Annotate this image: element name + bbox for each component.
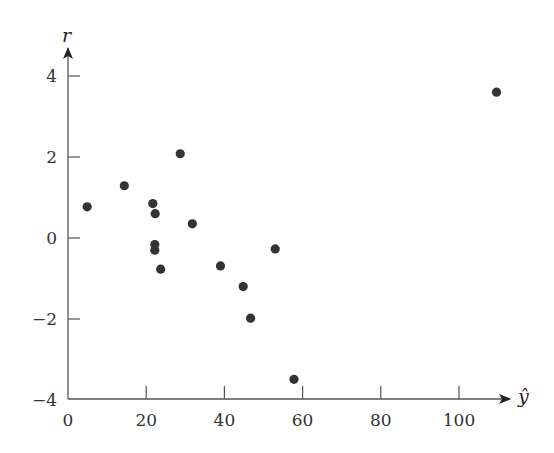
data-point bbox=[289, 375, 298, 384]
x-tick-label: 100 bbox=[443, 410, 475, 430]
y-tick-label: −4 bbox=[32, 390, 57, 410]
data-point bbox=[151, 209, 160, 218]
data-point bbox=[216, 261, 225, 270]
data-point bbox=[83, 202, 92, 211]
data-point bbox=[188, 219, 197, 228]
y-tick-label: 4 bbox=[46, 66, 57, 86]
x-tick-label: 40 bbox=[214, 410, 236, 430]
x-ticks: 020406080100 bbox=[63, 386, 476, 430]
y-ticks: −4−2024 bbox=[32, 66, 80, 410]
x-tick-label: 80 bbox=[370, 410, 392, 430]
data-point bbox=[120, 181, 129, 190]
y-axis-label: r bbox=[62, 24, 73, 46]
y-tick-label: 0 bbox=[46, 228, 57, 248]
data-point bbox=[246, 314, 255, 323]
x-tick-label: 60 bbox=[292, 410, 314, 430]
data-point bbox=[239, 282, 248, 291]
x-axis-label: ŷ bbox=[517, 385, 529, 407]
data-points bbox=[83, 88, 502, 384]
data-point bbox=[176, 149, 185, 158]
axes bbox=[68, 48, 510, 399]
y-tick-label: −2 bbox=[32, 309, 57, 329]
data-point bbox=[148, 199, 157, 208]
data-point bbox=[492, 88, 501, 97]
scatter-plot: 020406080100 −4−2024 ŷ r bbox=[0, 0, 554, 453]
y-tick-label: 2 bbox=[46, 147, 57, 167]
data-point bbox=[150, 246, 159, 255]
x-tick-label: 0 bbox=[63, 410, 74, 430]
x-tick-label: 20 bbox=[135, 410, 157, 430]
data-point bbox=[271, 244, 280, 253]
data-point bbox=[156, 265, 165, 274]
